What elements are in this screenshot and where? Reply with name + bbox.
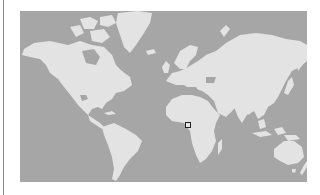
world-map[interactable] xyxy=(20,11,307,182)
world-map-land xyxy=(20,11,307,182)
left-divider-line xyxy=(3,0,4,195)
square-marker-icon[interactable] xyxy=(185,122,191,128)
